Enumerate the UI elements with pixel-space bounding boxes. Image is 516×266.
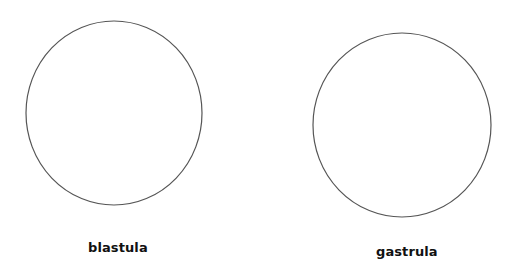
- gastrula-circle: [313, 33, 491, 217]
- blastula-label: blastula: [88, 241, 148, 254]
- gastrula-label: gastrula: [376, 245, 438, 258]
- blastula-circle: [26, 21, 202, 205]
- embryo-stages-diagram: [0, 0, 516, 266]
